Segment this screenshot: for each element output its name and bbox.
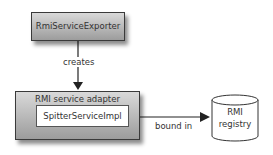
- creates-edge-label: creates: [62, 57, 95, 67]
- registry-label-line1: RMI: [212, 107, 258, 117]
- adapter-label: RMI service adapter: [16, 94, 139, 104]
- bound-in-edge-label: bound in: [155, 121, 192, 131]
- registry-label-line2: registry: [212, 119, 258, 129]
- exporter-label: RmiServiceExporter: [32, 21, 124, 31]
- database-cylinder-icon: [212, 95, 258, 141]
- spitter-service-impl-node: SpitterServiceImpl: [36, 105, 129, 127]
- rmi-service-exporter-node: RmiServiceExporter: [31, 12, 125, 41]
- rmi-service-adapter-node: RMI service adapter SpitterServiceImpl: [15, 91, 140, 140]
